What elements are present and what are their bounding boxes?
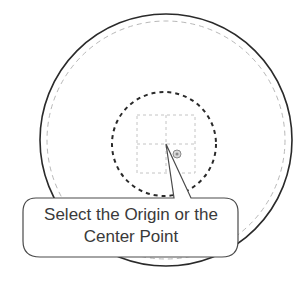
origin-point-marker[interactable]: [173, 150, 181, 158]
callout-line-1: Select the Origin or the: [24, 204, 238, 226]
callout-text: Select the Origin or the Center Point: [24, 204, 238, 248]
diagram-canvas: [0, 0, 303, 292]
callout-line-2: Center Point: [24, 226, 238, 248]
